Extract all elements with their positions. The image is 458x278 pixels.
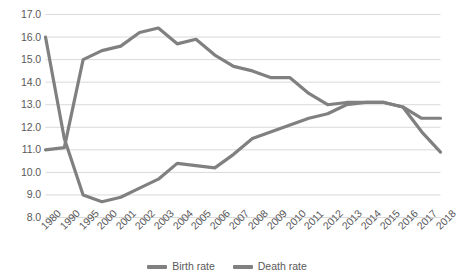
x-axis-tick-label: 1990: [58, 207, 82, 231]
chart-legend: Birth rateDeath rate: [0, 261, 454, 272]
legend-swatch-icon: [147, 265, 167, 269]
legend-label: Birth rate: [172, 261, 215, 272]
x-axis-tick-label: 2008: [246, 207, 270, 231]
legend-item[interactable]: Death rate: [233, 261, 307, 272]
x-axis-tick-label: 2014: [359, 207, 383, 231]
x-axis-tick-label: 2018: [434, 207, 458, 231]
legend-swatch-icon: [233, 265, 253, 269]
x-axis-tick-label: 2003: [152, 207, 176, 231]
legend-label: Death rate: [258, 261, 307, 272]
legend-item[interactable]: Birth rate: [147, 261, 215, 272]
x-axis-tick-label: 2009: [265, 207, 289, 231]
